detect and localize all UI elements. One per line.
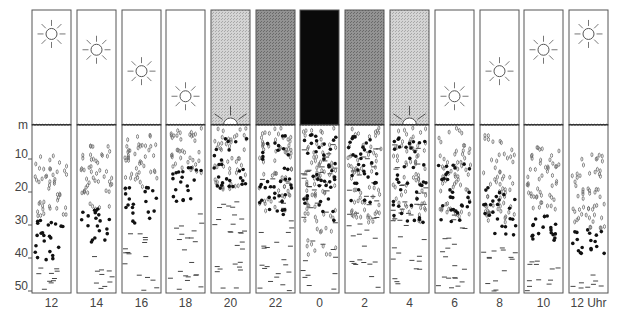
- diagram-canvas: [0, 0, 619, 321]
- time-label: 12 Uhr: [559, 296, 619, 310]
- column-18: [166, 10, 205, 293]
- depth-unit-label: m: [2, 118, 28, 132]
- column-14: [77, 10, 116, 293]
- sun-icon: [128, 57, 156, 85]
- sun-icon: [486, 57, 514, 85]
- migration-diagram: m 10 20 30 40 50 121416182022024681012 U…: [0, 0, 619, 321]
- sun-icon: [38, 20, 66, 48]
- sun-icon: [172, 82, 200, 110]
- column-12-uhr: [569, 10, 608, 293]
- depth-tick-50: 50: [2, 279, 28, 293]
- sun-icon: [530, 36, 558, 64]
- column-0: [300, 10, 339, 293]
- depth-tick-30: 30: [2, 213, 28, 227]
- column-10: [524, 10, 563, 293]
- column-6: [435, 10, 474, 293]
- depth-tick-40: 40: [2, 246, 28, 260]
- column-8: [480, 10, 519, 293]
- column-16: [122, 10, 161, 293]
- sun-icon: [83, 36, 111, 64]
- depth-tick-20: 20: [2, 180, 28, 194]
- column-22: [256, 10, 295, 293]
- column-4: [390, 10, 429, 293]
- sun-icon: [575, 20, 603, 48]
- column-12: [32, 10, 71, 293]
- column-20: [211, 10, 250, 293]
- column-2: [345, 10, 384, 293]
- sun-icon: [441, 82, 469, 110]
- depth-tick-10: 10: [2, 147, 28, 161]
